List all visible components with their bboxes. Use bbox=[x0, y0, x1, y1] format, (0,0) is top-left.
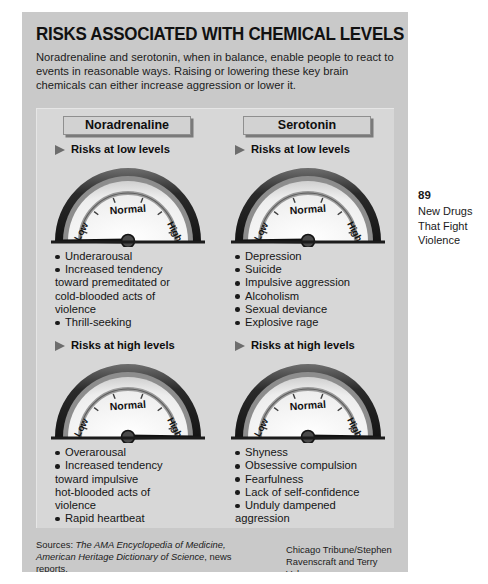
intro-paragraph: Noradrenaline and serotonin, when in bal… bbox=[36, 50, 394, 93]
credit-note: Chicago Tribune/Stephen Ravenscraft and … bbox=[286, 544, 402, 572]
subhead-high-levels: Risks at high levels bbox=[223, 338, 395, 355]
gauge-serotonin-low: Normal Low High bbox=[229, 161, 387, 247]
list-item: Underarousal bbox=[55, 250, 211, 263]
subhead-low-levels: Risks at low levels bbox=[43, 142, 215, 159]
list-item: Increased tendency bbox=[55, 263, 211, 276]
arrow-right-icon bbox=[235, 341, 245, 351]
list-item: Increased tendency bbox=[55, 459, 211, 472]
subhead-label: Risks at low levels bbox=[251, 143, 350, 155]
arrow-right-icon bbox=[55, 145, 65, 155]
list-item: Depression bbox=[235, 250, 391, 263]
gauge-label-normal: Normal bbox=[109, 202, 146, 217]
margin-caption-line-2: That Fight bbox=[418, 219, 484, 234]
gauge-serotonin-high: Normal Low High bbox=[229, 357, 387, 443]
list-item: Shyness bbox=[235, 446, 391, 459]
risk-list-noradrenaline-high: Overarousal Increased tendency toward im… bbox=[43, 446, 215, 525]
subhead-label: Risks at high levels bbox=[71, 339, 175, 351]
gauge-label-normal: Normal bbox=[109, 398, 146, 413]
gauge-label-normal: Normal bbox=[289, 202, 326, 217]
column-serotonin: Serotonin Risks at low levels bbox=[223, 109, 395, 528]
subhead-label: Risks at low levels bbox=[71, 143, 170, 155]
chemical-name-label: Serotonin bbox=[244, 117, 370, 134]
list-item: Suicide bbox=[235, 263, 391, 276]
subhead-high-levels: Risks at high levels bbox=[43, 338, 215, 355]
infographic-panel: RISKS ASSOCIATED WITH CHEMICAL LEVELS No… bbox=[22, 12, 408, 572]
margin-caption-line-1: New Drugs bbox=[418, 204, 484, 219]
list-item: cold-blooded acts of bbox=[55, 290, 211, 303]
margin-page-furniture: 89 New Drugs That Fight Violence bbox=[418, 188, 484, 248]
list-item: aggression bbox=[235, 512, 391, 525]
sources-note: Sources: The AMA Encyclopedia of Medicin… bbox=[36, 539, 254, 572]
list-item: hot-blooded acts of bbox=[55, 486, 211, 499]
sources-prefix: Sources: bbox=[36, 539, 76, 550]
list-item: Fearfulness bbox=[235, 473, 391, 486]
gauge-noradrenaline-low: Normal Low High bbox=[49, 161, 207, 247]
list-item: Impulsive aggression bbox=[235, 276, 391, 289]
list-item: violence bbox=[55, 303, 211, 316]
list-item: toward impulsive bbox=[55, 473, 211, 486]
gauge-label-normal: Normal bbox=[289, 398, 326, 413]
page-title: RISKS ASSOCIATED WITH CHEMICAL LEVELS bbox=[36, 24, 387, 45]
chemical-name-plaque-wrap: Serotonin bbox=[223, 116, 395, 142]
subhead-label: Risks at high levels bbox=[251, 339, 355, 351]
list-item: Thrill-seeking bbox=[55, 316, 211, 329]
list-item: toward premeditated or bbox=[55, 276, 211, 289]
list-item: Overarousal bbox=[55, 446, 211, 459]
list-item: Lack of self-confidence bbox=[235, 486, 391, 499]
list-item: Rapid heartbeat bbox=[55, 512, 211, 525]
list-item: Explosive rage bbox=[235, 316, 391, 329]
risk-list-serotonin-low: Depression Suicide Impulsive aggression … bbox=[223, 250, 395, 329]
list-item: violence bbox=[55, 499, 211, 512]
page-number: 89 bbox=[418, 188, 484, 203]
risk-list-noradrenaline-low: Underarousal Increased tendency toward p… bbox=[43, 250, 215, 329]
arrow-right-icon bbox=[55, 341, 65, 351]
chemical-name-label: Noradrenaline bbox=[64, 117, 190, 134]
list-item: Sexual deviance bbox=[235, 303, 391, 316]
columns-panel: Noradrenaline Risks at low levels bbox=[36, 108, 394, 528]
margin-caption-line-3: Violence bbox=[418, 233, 484, 248]
list-item: Alcoholism bbox=[235, 290, 391, 303]
arrow-right-icon bbox=[235, 145, 245, 155]
chemical-name-plaque: Serotonin bbox=[243, 116, 371, 135]
list-item: Unduly dampened bbox=[235, 499, 391, 512]
chemical-name-plaque-wrap: Noradrenaline bbox=[43, 116, 215, 142]
chemical-name-plaque: Noradrenaline bbox=[63, 116, 191, 135]
gauge-noradrenaline-high: Normal Low High bbox=[49, 357, 207, 443]
subhead-low-levels: Risks at low levels bbox=[223, 142, 395, 159]
list-item: Obsessive compulsion bbox=[235, 459, 391, 472]
column-noradrenaline: Noradrenaline Risks at low levels bbox=[43, 109, 215, 528]
risk-list-serotonin-high: Shyness Obsessive compulsion Fearfulness… bbox=[223, 446, 395, 525]
